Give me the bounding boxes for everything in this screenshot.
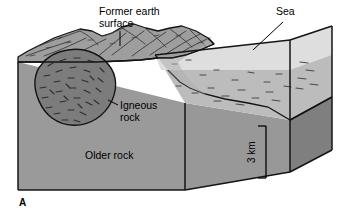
igneous-rock-body <box>35 49 116 125</box>
label-former-line2: surface <box>99 17 133 29</box>
panel-label-a: A <box>19 197 26 209</box>
label-igneous-line1: Igneous <box>120 99 157 111</box>
label-scale-3km: 3 km <box>246 129 258 175</box>
label-igneous-rock: Igneousrock <box>120 100 157 123</box>
label-former-earth-surface: Former earthsurface <box>99 6 160 29</box>
figure-panel: Former earthsurface Sea Igneousrock Olde… <box>0 0 351 215</box>
label-former-line1: Former earth <box>99 5 160 17</box>
label-igneous-line2: rock <box>120 111 140 123</box>
label-older-rock: Older rock <box>85 150 133 162</box>
block-diagram-svg <box>0 0 351 215</box>
label-sea: Sea <box>276 6 295 18</box>
